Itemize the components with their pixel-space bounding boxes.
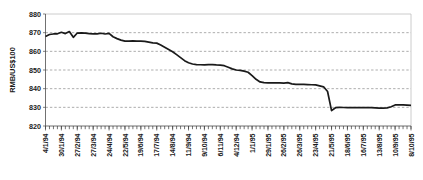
y-axis-ticks: 880870860850840830820 [29,10,46,131]
x-tick-label: 27/2/94 [74,133,81,156]
x-tick-label: 6/11/94 [217,133,224,156]
x-tick-label: 29/1/95 [265,133,272,156]
x-tick-label: 11/9/94 [185,133,192,156]
y-tick-label: 850 [29,66,41,75]
x-tick-label: 22/5/94 [122,133,129,156]
x-tick-label: 16/7/95 [360,133,367,156]
y-tick-label: 830 [29,103,41,112]
x-tick-label: 21/5/95 [328,133,335,156]
y-axis-title-text: RMB/US$100 [8,47,17,93]
line-chart: 880870860850840830820 RMB/US$100 4/1/943… [0,0,423,180]
x-tick-label: 1/1/95 [249,133,256,153]
x-tick-label: 27/3/94 [90,133,97,156]
x-tick-label: 4/1/94 [42,133,49,153]
x-tick-label: 19/6/94 [137,133,144,156]
x-axis-minor-ticks [46,126,412,129]
x-tick-label: 26/3/95 [296,133,303,156]
x-tick-label: 30/1/94 [58,133,65,156]
x-tick-label: 13/8/95 [376,133,383,156]
y-tick-label: 820 [29,122,41,131]
x-tick-label: 26/2/95 [280,133,287,156]
x-tick-label: 23/4/95 [312,133,319,156]
x-tick-label: 8/10/95 [408,133,415,156]
x-tick-label: 14/8/94 [169,133,176,156]
x-tick-label: 9/10/94 [201,133,208,156]
y-tick-label: 870 [29,28,41,37]
x-tick-label: 18/6/95 [344,133,351,156]
x-tick-label: 17/7/94 [153,133,160,156]
y-axis-title: RMB/US$100 [8,47,17,93]
y-tick-label: 880 [29,10,41,19]
chart-container: 880870860850840830820 RMB/US$100 4/1/943… [0,0,423,180]
x-tick-label: 4/12/94 [233,133,240,156]
y-tick-label: 840 [29,84,41,93]
y-tick-label: 860 [29,47,41,56]
x-tick-label: 10/9/95 [392,133,399,156]
x-tick-label: 24/4/94 [106,133,113,156]
x-axis-labels: 4/1/9430/1/9427/2/9427/3/9424/4/9422/5/9… [42,133,415,156]
